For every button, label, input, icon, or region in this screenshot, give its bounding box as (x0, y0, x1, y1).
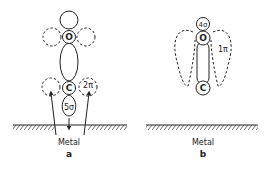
1pi-label: 1π (218, 45, 228, 54)
o-left-dashed-lobe (43, 28, 61, 46)
1pi-left-lobe (175, 30, 195, 86)
metal-label-b: Metal (192, 138, 214, 147)
panel-a (13, 11, 127, 135)
panel-label-b: b (200, 149, 207, 159)
o-right-dashed-lobe (77, 28, 95, 46)
oxygen-label: O (65, 32, 73, 42)
sigma-bond-lobe (60, 43, 78, 81)
co-metal-bonding-diagram: O C 5σ 2π Metal a 4σ O C 1π Metal b (0, 0, 267, 171)
metal-label-a: Metal (58, 138, 80, 147)
panel-label-a: a (66, 149, 72, 159)
carbon-label-b: C (200, 83, 207, 93)
sigma-bond-b (197, 42, 209, 84)
5sigma-label: 5σ (64, 103, 74, 112)
1pi-right-lobe (211, 30, 231, 86)
oxygen-label-b: O (199, 33, 207, 43)
carbon-label: C (66, 83, 73, 93)
4sigma-label: 4σ (199, 21, 208, 29)
2pi-label: 2π (83, 81, 93, 90)
o-top-lobe (60, 11, 78, 29)
